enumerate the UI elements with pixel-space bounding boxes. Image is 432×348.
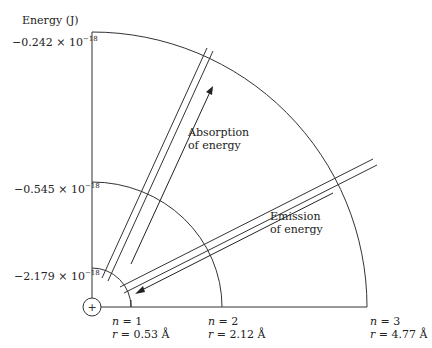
orbit-label-n1: n = 1 r = 0.53 Å xyxy=(112,315,169,341)
orbit-label-n3: n = 3 r = 4.77 Å xyxy=(370,315,427,341)
orbit-n2 xyxy=(92,182,222,307)
energy-label-n3: −0.242 × 10−18 xyxy=(12,33,98,49)
energy-label-n1: −2.179 × 10−18 xyxy=(14,267,100,283)
bohr-energy-diagram: + Energy (J) −0.242 × 10−18 −0.545 × 10−… xyxy=(0,0,432,348)
emission-label-line2: of energy xyxy=(270,223,323,236)
absorption-band-right xyxy=(108,51,213,281)
r1-value: 0.53 Å xyxy=(133,328,169,341)
r2-prefix: r = xyxy=(208,328,229,341)
n3-prefix: n = xyxy=(370,315,393,328)
y-axis-label: Energy (J) xyxy=(22,14,79,27)
orbit-label-n2: n = 2 r = 2.12 Å xyxy=(208,315,265,341)
nucleus-plus: + xyxy=(87,301,96,314)
energy-label-n2: −0.545 × 10−18 xyxy=(14,180,100,196)
energy-n3-mantissa: −0.242 × 10 xyxy=(12,36,83,49)
r1-prefix: r = xyxy=(112,328,133,341)
energy-n2-mantissa: −0.545 × 10 xyxy=(14,183,85,196)
emission-label: Emission of energy xyxy=(270,210,323,236)
n3-value: 3 xyxy=(393,315,400,328)
energy-n3-exp: −18 xyxy=(83,35,98,43)
n1-prefix: n = xyxy=(112,315,135,328)
energy-n1-exp: −18 xyxy=(85,269,100,277)
n2-prefix: n = xyxy=(208,315,231,328)
absorption-arrow xyxy=(131,92,210,264)
emission-arrow xyxy=(140,193,333,291)
energy-n2-exp: −18 xyxy=(85,182,100,190)
absorption-label-line2: of energy xyxy=(188,139,249,152)
absorption-arrowhead-icon xyxy=(206,86,213,95)
absorption-label-line1: Absorption xyxy=(188,126,249,139)
orbit-n3 xyxy=(92,32,367,307)
emission-band-bottom xyxy=(124,165,377,293)
r3-prefix: r = xyxy=(370,328,391,341)
energy-n1-mantissa: −2.179 × 10 xyxy=(14,270,85,283)
emission-label-line1: Emission xyxy=(270,210,323,223)
absorption-label: Absorption of energy xyxy=(188,126,249,152)
n2-value: 2 xyxy=(231,315,238,328)
emission-band-top xyxy=(120,159,373,287)
absorption-band-left xyxy=(102,48,207,278)
r2-value: 2.12 Å xyxy=(229,328,265,341)
n1-value: 1 xyxy=(135,315,142,328)
diagram-graphics: + xyxy=(0,0,432,348)
r3-value: 4.77 Å xyxy=(391,328,427,341)
